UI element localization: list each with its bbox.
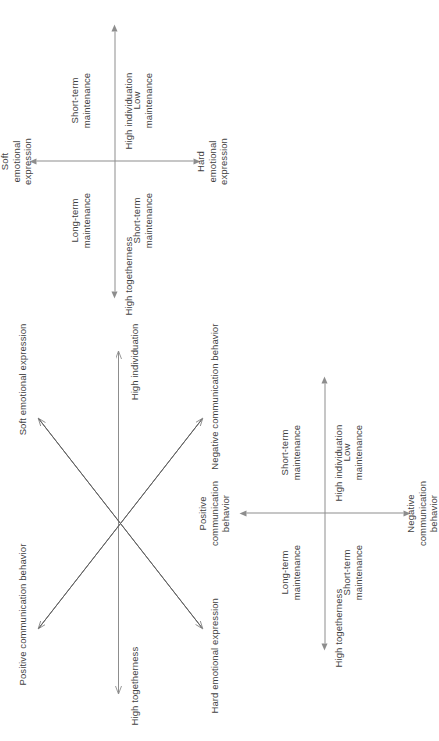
cross-upper-right-label: Soft emotional expression [16, 323, 28, 485]
communication-axis-top-label: Positive communication behavior [196, 467, 231, 559]
cross-axis-left-label: High togetherness [128, 605, 140, 725]
emotional-quadrant-bottom-left: Short-term maintenance [130, 175, 153, 265]
arrow-right-icon [321, 376, 327, 383]
communication-behavior-quadrant: High togetherness High individuation Pos… [232, 363, 417, 663]
crossing-dimensions-diagram: High togetherness High individuation Pos… [10, 323, 225, 723]
cross-axes-graphic [10, 323, 225, 723]
communication-quadrant-bottom-right: Low maintenance [340, 407, 363, 497]
communication-quadrant-top-left: Long-term maintenance [278, 527, 301, 617]
cross-upper-left-label: Positive communication behavior [16, 515, 28, 685]
arrow-right-icon [111, 24, 117, 31]
communication-vertical-axis [246, 512, 403, 513]
emotional-quadrant-bottom-right: Low maintenance [130, 55, 153, 145]
emotional-vertical-axis [36, 160, 193, 161]
cross-axis-right-label: High individuation [128, 323, 140, 461]
emotional-quadrant-top-left: Long-term maintenance [68, 175, 91, 265]
emotional-expression-quadrant: High togetherness High individuation Sof… [22, 11, 207, 311]
emotional-quadrant-top-right: Short-term maintenance [68, 55, 91, 145]
communication-quadrant-bottom-left: Short-term maintenance [340, 527, 363, 617]
cross-lower-left-label: Hard emotional expression [208, 533, 220, 713]
communication-quadrant-top-right: Short-term maintenance [278, 407, 301, 497]
arrow-left-icon [111, 291, 117, 298]
emotional-axis-top-label: Soft emotional expression [0, 119, 33, 203]
arrow-up-icon [239, 511, 246, 517]
arrow-left-icon [321, 643, 327, 650]
emotional-axis-bottom-label: Hard emotional expression [194, 119, 229, 203]
communication-axis-bottom-label: Negative communication behavior [404, 467, 439, 559]
